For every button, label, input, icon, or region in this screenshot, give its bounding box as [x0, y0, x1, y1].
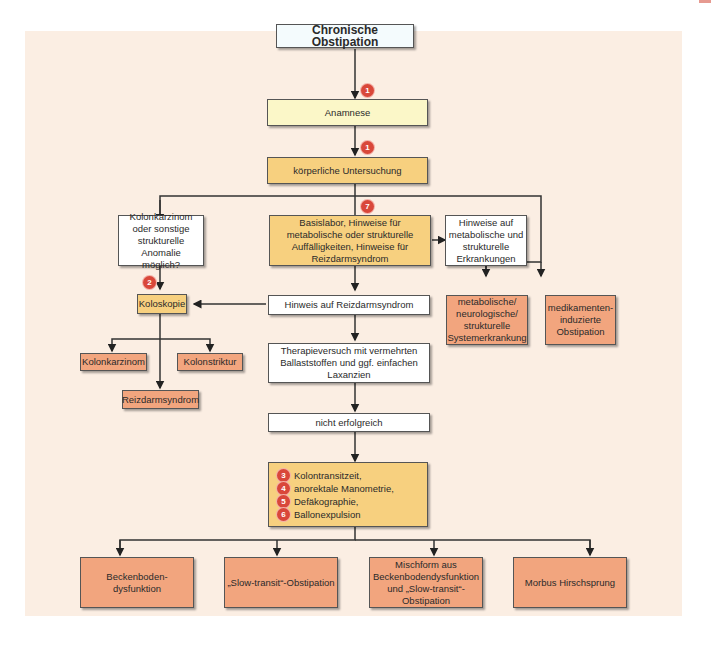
node-reizdarmsyndrom-label: Reizdarmsyndrom — [122, 394, 199, 406]
badge-7-basislabor: 7 — [361, 200, 374, 213]
diagnostik-item-label: anorektale Manometrie, — [294, 483, 394, 495]
node-nicht-erfolgreich: nicht erfolgreich — [268, 413, 430, 432]
badge-6: 6 — [277, 508, 290, 521]
diagnostik-item-manometrie: 4 anorektale Manometrie, — [277, 482, 394, 495]
node-beckenboden-label: Beckenboden-dysfunktion — [83, 571, 191, 595]
badge-5: 5 — [277, 495, 290, 508]
node-diagnostik: 3 Kolontransitzeit, 4 anorektale Manomet… — [268, 462, 428, 527]
badge-4: 4 — [277, 482, 290, 495]
node-hinweise-metabolisch-label: Hinweise auf metabolische und strukturel… — [448, 217, 524, 265]
node-koloskopie-label: Koloskopie — [139, 298, 185, 310]
node-mischform: Mischform aus Beckenbodendysfunktion und… — [369, 557, 483, 608]
title-box-chronische-obstipation: Chronische Obstipation — [276, 24, 414, 48]
node-beckenboden: Beckenboden-dysfunktion — [80, 557, 194, 608]
node-anamnese-label: Anamnese — [325, 107, 370, 119]
diagnostik-item-label: Kolontransitzeit, — [294, 470, 362, 482]
node-medikamenten-obstipation: medikamenten-induzierte Obstipation — [545, 295, 616, 345]
badge-2-koloskopie: 2 — [143, 276, 156, 289]
node-therapieversuch-label: Therapieversuch mit vermehrten Ballastst… — [271, 345, 427, 381]
diagnostik-item-ballonexpulsion: 6 Ballonexpulsion — [277, 508, 361, 521]
node-koerperliche-untersuchung: körperliche Untersuchung — [267, 157, 428, 184]
node-kolonkarzinom: Kolonkarzinom — [80, 353, 147, 371]
node-hinweis-reizdarm: Hinweis auf Reizdarmsyndrom — [268, 295, 430, 315]
diagnostik-item-label: Ballonexpulsion — [294, 509, 361, 521]
node-koerperliche-untersuchung-label: körperliche Untersuchung — [293, 165, 401, 177]
node-mischform-label: Mischform aus Beckenbodendysfunktion und… — [372, 559, 480, 607]
node-kolonkarzinom-label: Kolonkarzinom — [82, 356, 145, 368]
node-therapieversuch: Therapieversuch mit vermehrten Ballastst… — [268, 343, 430, 383]
node-kolonkarzinom-frage-label: Kolonkarzinom oder sonstige strukturelle… — [121, 211, 201, 271]
title-label: Chronische Obstipation — [279, 24, 411, 48]
diagnostik-item-label: Defäkographie, — [294, 496, 358, 508]
node-kolonkarzinom-frage: Kolonkarzinom oder sonstige strukturelle… — [118, 215, 204, 266]
node-koloskopie: Koloskopie — [137, 294, 187, 314]
node-slow-transit-label: „Slow-transit“-Obstipation — [227, 577, 334, 589]
node-basislabor: Basislabor, Hinweise für metabolische od… — [269, 215, 431, 266]
badge-1-anamnese: 1 — [361, 84, 374, 97]
node-metabolische-systemerkrankung: metabolische/ neurologische/ strukturell… — [446, 295, 528, 345]
node-hirschsprung: Morbus Hirschsprung — [513, 557, 627, 608]
node-metabolische-systemerkrankung-label: metabolische/ neurologische/ strukturell… — [447, 296, 526, 344]
node-basislabor-label: Basislabor, Hinweise für metabolische od… — [272, 217, 428, 265]
diagnostik-item-defaekographie: 5 Defäkographie, — [277, 495, 358, 508]
node-slow-transit: „Slow-transit“-Obstipation — [224, 557, 338, 608]
node-hinweise-metabolisch: Hinweise auf metabolische und strukturel… — [445, 215, 527, 266]
node-reizdarmsyndrom: Reizdarmsyndrom — [122, 390, 199, 409]
node-kolonstriktur: Kolonstriktur — [177, 353, 243, 371]
node-hinweis-reizdarm-label: Hinweis auf Reizdarmsyndrom — [285, 299, 414, 311]
node-nicht-erfolgreich-label: nicht erfolgreich — [315, 417, 382, 429]
node-anamnese: Anamnese — [267, 99, 428, 126]
diagnostik-item-kolontransitzeit: 3 Kolontransitzeit, — [277, 469, 362, 482]
node-medikamenten-obstipation-label: medikamenten-induzierte Obstipation — [548, 302, 613, 338]
badge-1-untersuchung: 1 — [361, 141, 374, 154]
node-hirschsprung-label: Morbus Hirschsprung — [525, 577, 615, 589]
badge-3: 3 — [277, 469, 290, 482]
node-kolonstriktur-label: Kolonstriktur — [184, 356, 237, 368]
